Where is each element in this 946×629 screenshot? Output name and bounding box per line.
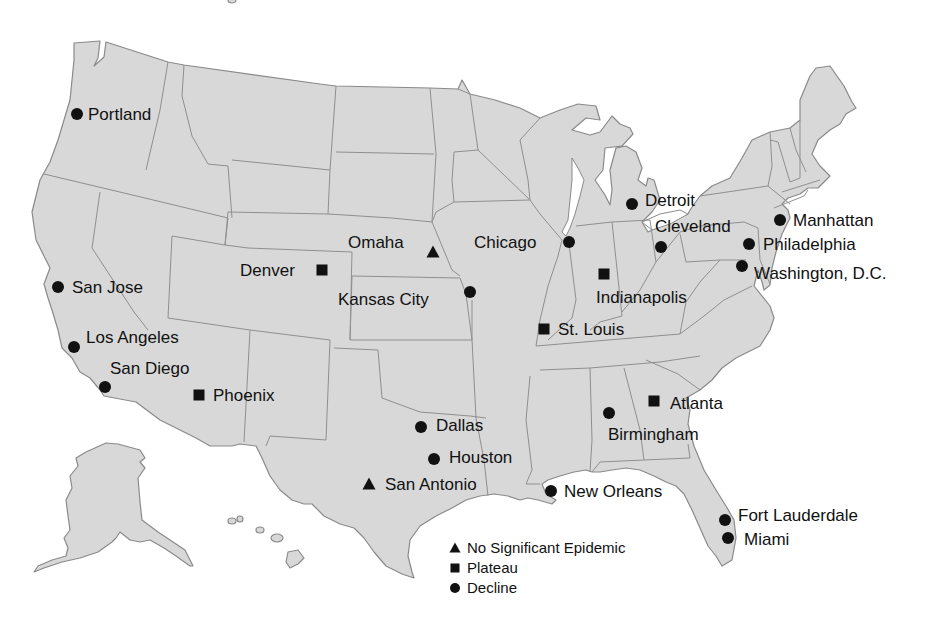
city-label: Dallas [436,416,483,435]
legend-item-square: Plateau [451,559,518,576]
decline-circle-icon [722,532,734,544]
decline-circle-icon [736,260,748,272]
city-label: Fort Lauderdale [738,506,858,525]
city-fort-lauderdale: Fort Lauderdale [719,506,858,526]
city-label: Atlanta [670,394,723,413]
decline-circle-icon [626,198,638,210]
city-label: Omaha [348,233,404,252]
legend-label: No Significant Epidemic [467,539,626,556]
decline-circle-icon [655,241,667,253]
decline-circle-icon [52,281,64,293]
decline-circle-icon [450,583,460,593]
decline-circle-icon [719,514,731,526]
no-epidemic-triangle-icon [450,543,461,553]
map-legend: No Significant EpidemicPlateauDecline [450,539,626,596]
city-label: St. Louis [558,320,624,339]
plateau-square-icon [451,564,460,573]
us-map: PortlandSan JoseLos AngelesSan DiegoPhoe… [0,0,946,629]
decline-circle-icon [563,236,575,248]
decline-circle-icon [428,453,440,465]
city-label: Portland [88,105,151,124]
city-label: Philadelphia [763,235,856,254]
contiguous-us-landmass [32,41,856,578]
plateau-square-icon [649,396,660,407]
decline-circle-icon [68,341,80,353]
legend-item-triangle: No Significant Epidemic [450,539,626,556]
decline-circle-icon [774,214,786,226]
plateau-square-icon [539,324,550,335]
decline-circle-icon [99,381,111,393]
city-label: San Jose [72,278,143,297]
city-label: Indianapolis [596,288,687,307]
city-label: Denver [240,261,295,280]
plateau-square-icon [317,265,328,276]
city-label: Houston [449,448,512,467]
alaska-landmass [34,443,193,572]
city-label: Phoenix [213,386,275,405]
decline-circle-icon [743,238,755,250]
plateau-square-icon [194,390,205,401]
city-label: Birmingham [608,425,699,444]
legend-item-circle: Decline [450,579,517,596]
city-label: Kansas City [338,290,429,309]
city-label: Washington, D.C. [754,264,887,283]
city-label: Detroit [645,191,695,210]
city-new-orleans: New Orleans [545,482,662,501]
city-label: Manhattan [793,211,873,230]
decline-circle-icon [545,485,557,497]
city-label: New Orleans [564,482,662,501]
legend-label: Decline [467,579,517,596]
city-label: San Antonio [385,475,477,494]
city-label: Los Angeles [86,328,179,347]
plateau-square-icon [599,269,610,280]
city-label: San Diego [110,359,189,378]
city-label: Miami [744,530,789,549]
legend-label: Plateau [467,559,518,576]
decline-circle-icon [603,407,615,419]
city-washington-d-c: Washington, D.C. [736,260,887,283]
decline-circle-icon [71,108,83,120]
city-label: Cleveland [655,217,731,236]
decline-circle-icon [415,421,427,433]
city-label: Chicago [474,233,536,252]
decline-circle-icon [464,286,476,298]
